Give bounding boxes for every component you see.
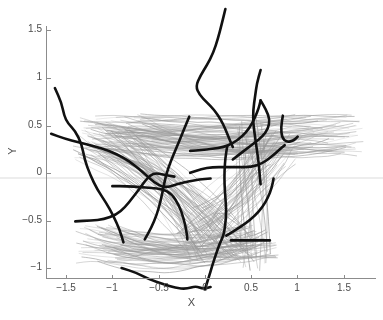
y-tick-label: −0.5 <box>12 214 42 225</box>
x-tick-label: −1.5 <box>49 282 83 293</box>
x-tick-label: 1.5 <box>327 282 361 293</box>
trajectory-plot-figure: 1.510.50−0.5−1 −1.5−1−0.500.511.5 X Y <box>0 0 383 320</box>
x-tick-label: 1 <box>280 282 314 293</box>
x-axis-spine <box>46 278 376 279</box>
y-axis-spine <box>46 26 47 279</box>
y-tick-label: 1 <box>12 71 42 82</box>
x-tick-label: −1 <box>95 282 129 293</box>
y-tick-mark <box>47 221 51 222</box>
y-tick-label: 1.5 <box>12 23 42 34</box>
y-tick-mark <box>47 78 51 79</box>
y-axis-title: Y <box>6 131 18 171</box>
x-tick-label: −0.5 <box>142 282 176 293</box>
x-tick-mark <box>66 275 67 279</box>
y-tick-mark <box>47 173 51 174</box>
y-tick-label: 0.5 <box>12 119 42 130</box>
trajectory-plot-canvas <box>0 0 383 320</box>
x-tick-mark <box>297 275 298 279</box>
x-tick-mark <box>205 275 206 279</box>
y-tick-label: −1 <box>12 261 42 272</box>
x-tick-mark <box>159 275 160 279</box>
x-tick-mark <box>344 275 345 279</box>
y-tick-mark <box>47 126 51 127</box>
x-tick-mark <box>112 275 113 279</box>
x-axis-title: X <box>0 296 383 308</box>
y-tick-mark <box>47 268 51 269</box>
x-tick-mark <box>251 275 252 279</box>
x-tick-label: 0.5 <box>234 282 268 293</box>
y-tick-mark <box>47 30 51 31</box>
x-tick-label: 0 <box>188 282 222 293</box>
